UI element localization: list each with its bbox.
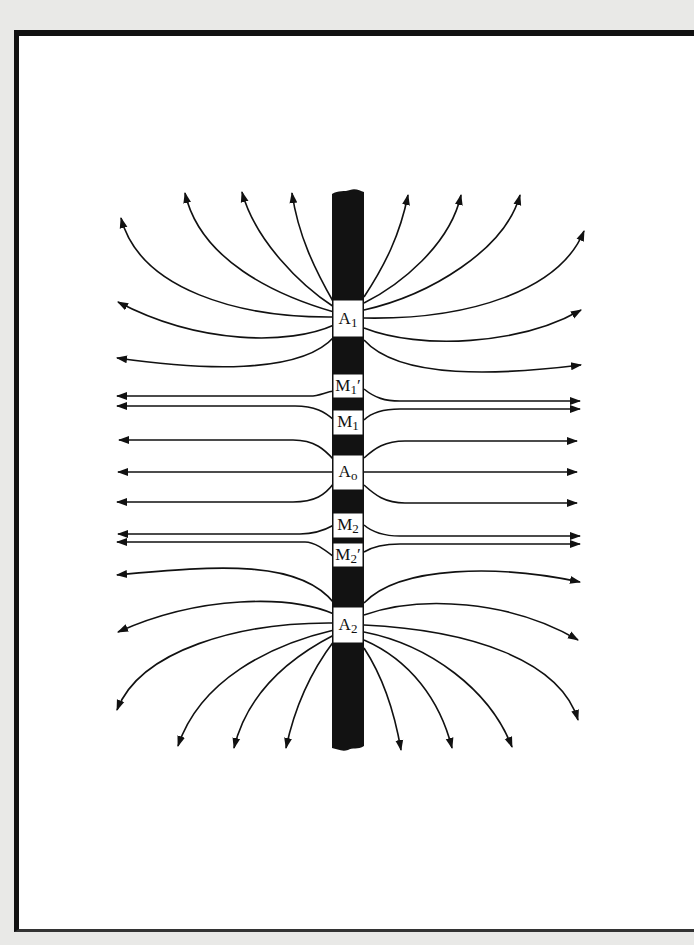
label-a0: Ao bbox=[339, 463, 358, 482]
center-field-lines-right bbox=[364, 389, 580, 552]
label-m2-prime: M2′ bbox=[335, 546, 360, 565]
a1-field-lines-left bbox=[117, 192, 334, 367]
a1-field-lines-right bbox=[364, 195, 584, 372]
center-field-lines-left bbox=[117, 391, 334, 557]
label-a1: A1 bbox=[339, 310, 358, 329]
a2-field-lines-right bbox=[364, 571, 580, 750]
label-a2: A2 bbox=[339, 616, 358, 635]
label-m1-prime: M1′ bbox=[335, 377, 360, 396]
label-m1: M1 bbox=[337, 413, 359, 432]
a2-field-lines-left bbox=[117, 568, 334, 748]
label-m2: M2 bbox=[337, 516, 359, 535]
